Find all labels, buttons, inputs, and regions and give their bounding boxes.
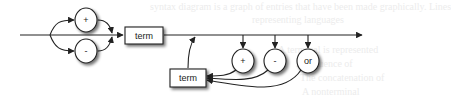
- op-or-label: or: [304, 56, 312, 66]
- op-minus-label: -: [274, 56, 277, 66]
- edge-from-sign-plus: [98, 20, 112, 33]
- term-loop-label: term: [179, 73, 197, 83]
- term-first-label: term: [135, 31, 153, 41]
- edge-to-sign-minus: [50, 35, 74, 51]
- edge-to-sign-plus: [50, 20, 74, 35]
- edge-term-to-main: [188, 37, 195, 68]
- edge-from-sign-minus: [98, 37, 112, 51]
- edge-op-plus-to-term: [207, 70, 236, 76]
- op-plus-label: +: [240, 56, 245, 66]
- sign-minus-label: -: [85, 46, 88, 56]
- sign-plus-label: +: [83, 15, 88, 25]
